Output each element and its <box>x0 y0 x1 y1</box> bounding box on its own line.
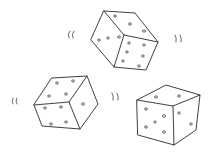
top-die <box>91 11 158 70</box>
motion-mark-middle-left <box>12 98 17 104</box>
motion-mark-top-right <box>175 35 181 42</box>
bottom-right-die <box>137 85 200 145</box>
dice-sketch <box>0 0 212 152</box>
motion-mark-top-left <box>68 31 74 38</box>
motion-mark-middle-right <box>112 93 118 100</box>
bottom-left-die <box>34 76 98 129</box>
